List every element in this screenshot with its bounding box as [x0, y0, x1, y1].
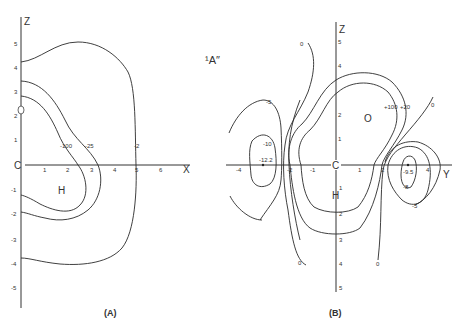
contour-minus5-right-b: [388, 146, 431, 204]
figure-canvas: Z X C 1 2 3 4 5 6 1 2 3 4 5 -1 -2 -3 -4 …: [0, 0, 461, 331]
x-ticks-a: 1 2 3 4 5 6: [43, 167, 163, 173]
svg-text:2: 2: [14, 113, 18, 119]
contour-label-minus5-right: -5: [412, 203, 418, 209]
contour-label-minus9-5: -9.5: [403, 169, 414, 175]
svg-text:-1: -1: [11, 187, 17, 193]
svg-text:5: 5: [14, 41, 18, 47]
z-axis-label-b: Z: [339, 24, 345, 35]
svg-text:2: 2: [66, 167, 70, 173]
contour-label-plus100: +100: [384, 104, 398, 110]
svg-text:1: 1: [339, 185, 343, 191]
svg-text:3: 3: [339, 237, 343, 243]
svg-text:5: 5: [339, 285, 343, 291]
contour-label-minus8: -8: [403, 184, 409, 190]
svg-text:1: 1: [14, 137, 18, 143]
svg-text:-4: -4: [11, 261, 17, 267]
contour-minus100-a: [21, 96, 86, 211]
x-axis-label-a: X: [183, 164, 190, 175]
atom-label-o-b: O: [364, 113, 372, 124]
svg-text:4: 4: [14, 65, 18, 71]
svg-text:-1: -1: [310, 167, 316, 173]
contour-minus5-left-b: [229, 100, 282, 220]
minimum-marker-right: [407, 164, 409, 166]
svg-text:4: 4: [113, 167, 117, 173]
svg-text:4: 4: [338, 63, 342, 69]
origin-label-a: C: [14, 160, 21, 171]
contour-label-zero-bottom-right: 0: [376, 261, 380, 267]
svg-text:3: 3: [90, 167, 94, 173]
svg-text:1: 1: [43, 167, 47, 173]
contour-label-minus25: -25: [85, 143, 94, 149]
caption-b: (B): [329, 308, 342, 318]
marker-o-a: [18, 106, 24, 114]
svg-text:1: 1: [358, 167, 362, 173]
svg-text:-2: -2: [11, 211, 17, 217]
panel-a: Z X C 1 2 3 4 5 6 1 2 3 4 5 -1 -2 -3 -4 …: [11, 16, 190, 318]
contour-label-minus100: -100: [60, 143, 73, 149]
contour-label-minus5-left: -5: [266, 99, 272, 105]
contour-minus5-left-lower-b: [230, 196, 262, 220]
contour-label-minus10: -10: [263, 141, 272, 147]
z-axis-label-a: Z: [24, 16, 30, 27]
contour-label-zero-top: 0: [300, 41, 304, 47]
contour-minus2-a: [21, 42, 136, 264]
state-label-b: ¹A″: [205, 54, 220, 66]
atom-label-h-a: H: [58, 185, 65, 196]
contour-label-plus20: +20: [400, 104, 411, 110]
svg-text:-3: -3: [11, 237, 17, 243]
caption-a: (A): [104, 308, 117, 318]
svg-text:-4: -4: [236, 167, 242, 173]
svg-text:1: 1: [338, 136, 342, 142]
svg-text:-5: -5: [11, 285, 17, 291]
contour-label-minus12-2: -12.2: [259, 157, 273, 163]
svg-text:3: 3: [14, 89, 18, 95]
origin-label-b: C: [332, 160, 339, 171]
svg-text:5: 5: [338, 39, 342, 45]
contour-label-zero-right: 0: [431, 102, 435, 108]
atom-label-h-b: H: [332, 190, 339, 201]
svg-text:4: 4: [426, 167, 430, 173]
contour-minus25-a: [21, 81, 101, 220]
contour-plus100-b: [299, 83, 397, 212]
svg-text:2: 2: [338, 112, 342, 118]
y-axis-label-b: Y: [443, 169, 450, 180]
minimum-marker-left: [262, 164, 264, 166]
svg-text:6: 6: [159, 167, 163, 173]
panel-b: ¹A″ Z Y C -4 -2 -1 1 2 4 1 2 4 5 1 2 3 4…: [205, 22, 452, 318]
contour-label-minus2: -2: [134, 143, 140, 149]
svg-text:4: 4: [339, 261, 343, 267]
svg-text:5: 5: [135, 167, 139, 173]
